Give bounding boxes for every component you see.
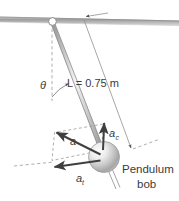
pendulum-diagram-svg: θ L = 0.75 m a a c a t Pendulum bob bbox=[0, 0, 179, 201]
centripetal-acceleration-label: a bbox=[109, 127, 115, 139]
ceiling-support bbox=[0, 17, 179, 26]
bob-caption-line1: Pendulum bbox=[122, 163, 174, 175]
centripetal-acceleration-vector bbox=[103, 123, 104, 150]
length-label: L = 0.75 m bbox=[67, 77, 119, 89]
tangential-acceleration-subscript: t bbox=[82, 179, 85, 186]
angle-label: θ bbox=[40, 79, 46, 91]
pendulum-figure: θ L = 0.75 m a a c a t Pendulum bob bbox=[0, 0, 179, 201]
centripetal-acceleration-subscript: c bbox=[116, 134, 120, 141]
bob-caption-line2: bob bbox=[137, 178, 156, 190]
resultant-acceleration-label: a bbox=[70, 135, 76, 147]
pivot-point bbox=[49, 18, 57, 26]
